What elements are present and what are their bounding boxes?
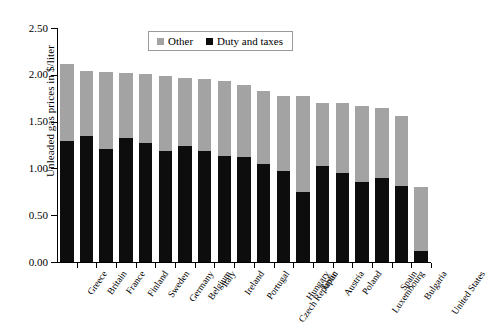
bar-segment-other	[296, 96, 310, 191]
bar-segment-other	[414, 187, 428, 251]
x-axis-tick	[214, 263, 215, 268]
legend-swatch-icon	[206, 38, 213, 45]
x-axis-tick	[175, 263, 176, 268]
legend-label: Duty and taxes	[217, 35, 283, 47]
x-axis-label-france: France	[124, 269, 147, 296]
bar-segment-duty-and-taxes	[178, 146, 192, 262]
bar-segment-duty-and-taxes	[60, 141, 74, 262]
y-axis-tick-label: 1.50	[2, 116, 48, 127]
bar-segment-other	[119, 73, 133, 138]
x-axis-label-britain: Britain	[105, 269, 128, 296]
x-axis-tick	[431, 263, 432, 268]
y-axis-tick-label: 0.00	[2, 257, 48, 268]
x-axis-tick	[77, 263, 78, 268]
bar-segment-duty-and-taxes	[316, 166, 330, 262]
bar-segment-duty-and-taxes	[296, 192, 310, 262]
bar-sweden	[139, 74, 153, 262]
bar-finland	[119, 73, 133, 262]
bar-segment-other	[60, 64, 74, 142]
bar-bulgaria	[395, 116, 409, 262]
x-axis-tick	[313, 263, 314, 268]
bar-segment-other	[316, 103, 330, 166]
bar-britain	[80, 71, 94, 262]
bar-segment-duty-and-taxes	[355, 182, 369, 262]
y-axis-tick-label: 0.50	[2, 210, 48, 221]
bar-segment-duty-and-taxes	[80, 136, 94, 262]
x-axis-label-united-states: United States	[450, 269, 487, 316]
bar-united-states	[414, 187, 428, 262]
x-axis-tick	[411, 263, 412, 268]
bar-segment-other	[257, 91, 271, 164]
x-axis-tick	[372, 263, 373, 268]
bar-spain	[375, 108, 389, 262]
x-axis-label-austria: Austria	[342, 269, 366, 298]
bar-segment-other	[80, 71, 94, 136]
bar-germany	[159, 76, 173, 262]
bar-segment-duty-and-taxes	[237, 157, 251, 262]
x-axis-tick	[293, 263, 294, 268]
bar-france	[99, 72, 113, 262]
y-axis-tick-label: 1.00	[2, 163, 48, 174]
bar-segment-other	[218, 81, 232, 156]
bar-segment-duty-and-taxes	[395, 186, 409, 262]
bar-segment-other	[178, 78, 192, 146]
y-axis-tick-label: 2.00	[2, 69, 48, 80]
bar-segment-other	[336, 103, 350, 173]
bar-segment-other	[159, 76, 173, 151]
x-axis-tick	[96, 263, 97, 268]
x-axis-label-portugal: Portugal	[265, 269, 292, 301]
bar-poland	[336, 103, 350, 262]
bar-segment-other	[355, 106, 369, 183]
bar-segment-duty-and-taxes	[198, 151, 212, 262]
x-axis-tick	[333, 263, 334, 268]
x-axis-label-greece: Greece	[85, 269, 109, 297]
x-axis-tick	[274, 263, 275, 268]
x-axis-tick	[234, 263, 235, 268]
y-axis-tick-label: 2.50	[2, 23, 48, 34]
chart-legend: OtherDuty and taxes	[148, 31, 293, 51]
bar-segment-duty-and-taxes	[119, 138, 133, 262]
bar-segment-other	[237, 85, 251, 157]
x-axis-tick	[392, 263, 393, 268]
x-axis-label-ireland: Ireland	[243, 269, 267, 297]
x-axis-tick	[155, 263, 156, 268]
bar-segment-other	[277, 96, 291, 171]
bar-segment-duty-and-taxes	[336, 173, 350, 262]
bar-segment-duty-and-taxes	[159, 151, 173, 262]
bar-segment-other	[99, 72, 113, 149]
bar-segment-duty-and-taxes	[257, 164, 271, 262]
legend-item: Other	[157, 35, 193, 47]
legend-item: Duty and taxes	[206, 35, 283, 47]
bar-segment-other	[375, 108, 389, 178]
bar-segment-duty-and-taxes	[277, 171, 291, 262]
bar-austria	[316, 103, 330, 262]
bar-luxembourg	[355, 106, 369, 262]
bar-belgium	[178, 78, 192, 262]
bar-segment-duty-and-taxes	[99, 149, 113, 262]
bar-czech-republic	[257, 91, 271, 262]
y-axis-tick	[51, 262, 57, 263]
legend-swatch-icon	[157, 38, 164, 45]
bar-segment-other	[198, 79, 212, 150]
bar-portugal	[237, 85, 251, 262]
x-axis-line	[57, 262, 431, 263]
bar-segment-duty-and-taxes	[414, 251, 428, 262]
bar-segment-other	[139, 74, 153, 143]
legend-label: Other	[168, 35, 193, 47]
bar-ireland	[218, 81, 232, 262]
bar-greece	[60, 64, 74, 262]
bar-segment-duty-and-taxes	[375, 178, 389, 262]
bar-italy	[198, 79, 212, 262]
plot-area	[57, 28, 431, 262]
x-axis-tick	[195, 263, 196, 268]
x-axis-tick	[136, 263, 137, 268]
bar-segment-duty-and-taxes	[218, 156, 232, 262]
x-axis-tick	[254, 263, 255, 268]
x-axis-tick	[352, 263, 353, 268]
x-axis-tick	[116, 263, 117, 268]
bar-hungary	[277, 96, 291, 262]
bar-segment-other	[395, 116, 409, 186]
bar-segment-duty-and-taxes	[139, 143, 153, 262]
bar-japan	[296, 96, 310, 262]
